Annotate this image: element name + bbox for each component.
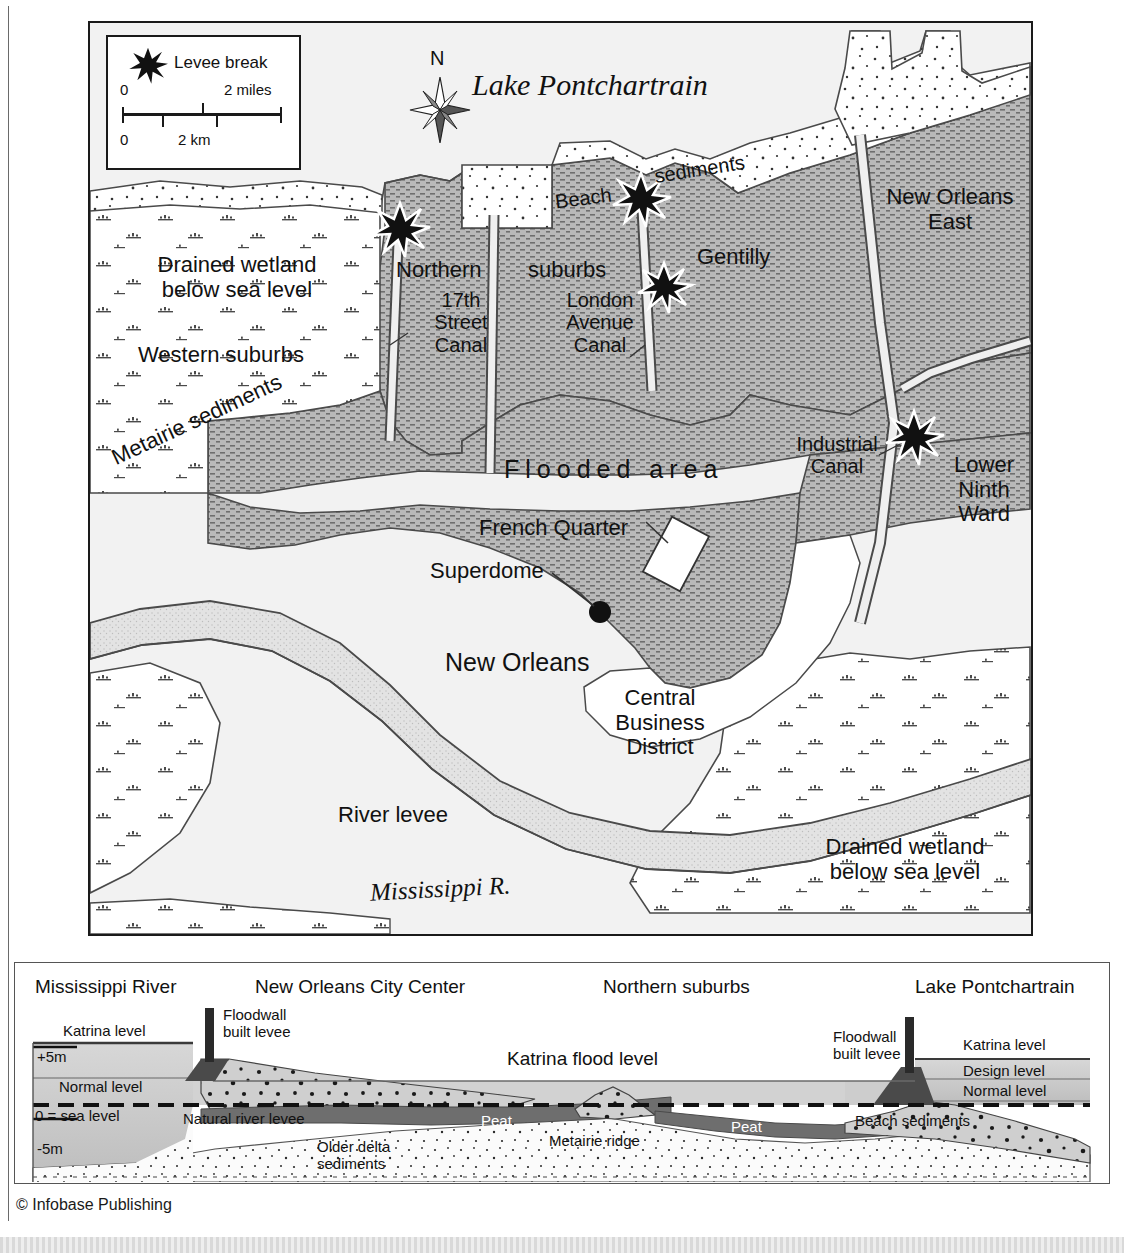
xsec-normal-level-right: Normal level [963, 1083, 1046, 1100]
xsec-axis-minus5m: -5m [37, 1141, 63, 1158]
xsec-peat-left: Peat [481, 1113, 512, 1130]
xsec-floodwall-left: Floodwall built levee [223, 1007, 291, 1040]
xsec-beach-sediments: Beach sediments [855, 1113, 970, 1130]
page-edge-line [8, 6, 9, 1221]
scale-miles-end: 2 miles [224, 81, 272, 98]
compass-star-icon [408, 75, 472, 145]
map-legend: Levee break 0 2 miles 0 2 km [106, 35, 301, 170]
xsec-katrina-flood-level: Katrina flood level [507, 1049, 658, 1070]
xsec-normal-level-left: Normal level [59, 1079, 142, 1096]
label-drained-wetland-southeast: Drained wetland below sea level [780, 835, 1030, 884]
compass-north-label: N [430, 47, 444, 70]
label-drained-wetland-northwest: Drained wetland below sea level [112, 253, 362, 302]
label-17th-street-canal: 17th Street Canal [408, 289, 514, 356]
xsec-header-city-center: New Orleans City Center [255, 977, 465, 998]
label-french-quarter: French Quarter [479, 516, 628, 541]
copyright-notice: © Infobase Publishing [16, 1196, 172, 1214]
northwest-shore-sediments [90, 181, 382, 213]
scale-tick-mi-1 [202, 103, 204, 115]
xsec-header-lake-pontchartrain: Lake Pontchartrain [915, 977, 1075, 998]
label-central-business-district: Central Business District [600, 686, 720, 760]
xsec-axis-sea-level: 0 = sea level [35, 1108, 120, 1125]
label-river-levee: River levee [338, 803, 448, 828]
floodwall-right-wall [905, 1017, 914, 1073]
xsec-axis-plus5m: +5m [37, 1049, 67, 1066]
compass-rose: N [408, 51, 472, 145]
label-western-suburbs: Western suburbs [138, 343, 304, 368]
label-superdome: Superdome [430, 559, 544, 584]
label-lake-pontchartrain: Lake Pontchartrain [472, 68, 708, 102]
legend-levee-break-label: Levee break [174, 53, 268, 73]
scale-tick-km-2 [216, 115, 218, 127]
label-london-avenue-canal: London Avenue Canal [542, 289, 658, 356]
label-flooded-area: Flooded area [504, 455, 723, 483]
xsec-katrina-level-left: Katrina level [63, 1023, 146, 1040]
scale-miles-start: 0 [120, 81, 128, 98]
xsec-floodwall-right: Floodwall built levee [833, 1029, 901, 1062]
label-gentilly: Gentilly [697, 245, 770, 270]
xsec-metairie-ridge: Metairie ridge [549, 1133, 640, 1150]
levee-break-star-icon [128, 45, 168, 85]
scale-tick-end [280, 107, 282, 123]
floodwall-left-wall [205, 1008, 214, 1062]
xsec-design-level: Design level [963, 1063, 1045, 1080]
scale-km-start: 0 [120, 131, 128, 148]
label-new-orleans-east: New Orleans East [870, 185, 1030, 234]
page-bottom-band [0, 1237, 1124, 1253]
label-northern: Northern [396, 258, 482, 283]
map-panel: Levee break 0 2 miles 0 2 km N [88, 21, 1033, 936]
label-new-orleans: New Orleans [445, 648, 590, 676]
scale-km-end: 2 km [178, 131, 211, 148]
label-lower-ninth-ward: Lower Ninth Ward [938, 453, 1030, 527]
scale-tick-0 [122, 107, 124, 123]
xsec-katrina-level-right: Katrina level [963, 1037, 1046, 1054]
page-root: Levee break 0 2 miles 0 2 km N [0, 0, 1124, 1253]
xsec-natural-river-levee: Natural river levee [183, 1111, 305, 1128]
label-suburbs: suburbs [528, 258, 606, 283]
xsec-peat-right: Peat [731, 1119, 762, 1136]
xsec-older-delta-sediments: Older delta sediments [317, 1139, 390, 1172]
xsec-header-northern-suburbs: Northern suburbs [603, 977, 750, 998]
scale-tick-km-1 [162, 115, 164, 127]
xsec-header-mississippi-river: Mississippi River [35, 977, 176, 998]
label-industrial-canal: Industrial Canal [782, 433, 892, 478]
cross-section-panel: Mississippi River New Orleans City Cente… [14, 962, 1110, 1184]
